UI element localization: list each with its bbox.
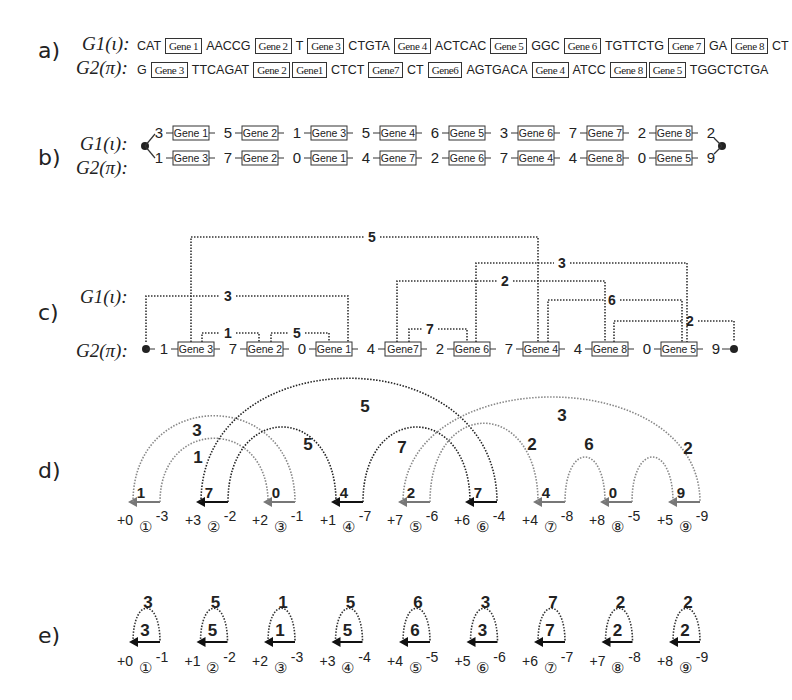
gene-label: Gene 3: [174, 152, 209, 164]
node-id: ⑨: [679, 659, 692, 676]
top-weight: 3: [481, 593, 490, 612]
intergene-size: 7: [505, 340, 513, 357]
intergene-size: 0: [298, 340, 306, 357]
gene-label: Gene 3: [312, 127, 347, 139]
link-bracket: [236, 296, 348, 342]
adjacency-arc: [565, 457, 605, 502]
intergene-size: 5: [224, 124, 232, 141]
left-extremity: +6: [454, 512, 470, 528]
link-bracket: [570, 263, 687, 342]
loop-weight: 7: [474, 484, 482, 501]
arc-label: 2: [527, 435, 536, 454]
right-extremity: -1: [156, 649, 169, 665]
top-weight: 2: [683, 593, 692, 612]
right-extremity: -3: [156, 508, 169, 524]
arc-label: 1: [193, 448, 202, 467]
intergene-sequence: CT: [769, 39, 792, 53]
top-weight: 7: [548, 593, 557, 612]
right-extremity: -4: [358, 649, 371, 665]
right-extremity: -5: [426, 649, 439, 665]
gene-label: Gene 4: [519, 152, 554, 164]
loop-weight: 4: [542, 484, 551, 501]
node-id: ③: [274, 518, 287, 535]
telomere-dot: [730, 345, 738, 353]
fork-line: [145, 134, 155, 146]
link-bracket: [380, 237, 538, 342]
intergene-size: 1: [155, 149, 163, 166]
gene-label: Gene 8: [588, 152, 623, 164]
right-extremity: -7: [359, 508, 372, 524]
link-label: 2: [501, 273, 509, 289]
top-weight: 6: [413, 593, 422, 612]
link-bracket: [513, 281, 605, 342]
gene-label: Gene 1: [317, 343, 352, 355]
gene-label: Gene 6: [519, 127, 554, 139]
left-extremity: +0: [117, 653, 133, 669]
intergene-size: 1: [293, 124, 301, 141]
intergene-size: 4: [367, 340, 375, 357]
link-bracket: [476, 263, 554, 342]
intergene-size: 2: [431, 149, 439, 166]
loop-weight: 6: [410, 621, 419, 640]
intergene-size: 7: [569, 124, 577, 141]
top-weight: 3: [143, 593, 152, 612]
gene-label: Gene 5: [657, 152, 692, 164]
intergene-size: 5: [362, 124, 370, 141]
left-extremity: +6: [522, 653, 538, 669]
loop-weight: 2: [613, 621, 622, 640]
node-id: ④: [342, 518, 355, 535]
top-weight: 5: [346, 593, 355, 612]
intergene-size: 2: [436, 340, 444, 357]
adjacency-arc: [632, 457, 673, 502]
adjacency-arc: [228, 427, 336, 502]
loop-weight: 7: [545, 621, 554, 640]
left-extremity: +3: [320, 653, 336, 669]
node-id: ⑧: [611, 659, 624, 676]
link-bracket: [548, 300, 604, 342]
right-extremity: -3: [291, 649, 304, 665]
left-extremity: +8: [657, 653, 673, 669]
loop-weight: 5: [208, 621, 217, 640]
adjacency-arc: [403, 397, 700, 502]
fork-line: [714, 138, 722, 146]
link-bracket: [614, 321, 682, 342]
gene-label: Gene 2: [248, 343, 283, 355]
link-bracket: [236, 333, 259, 342]
gene-label: Gene 1: [174, 127, 209, 139]
left-extremity: +5: [455, 653, 471, 669]
right-extremity: -6: [493, 649, 506, 665]
gene-label: Gene 1: [312, 152, 347, 164]
right-extremity: -2: [223, 649, 236, 665]
gene-label: Gene 6: [455, 343, 490, 355]
intergene-size: 2: [638, 124, 646, 141]
link-label: 6: [608, 292, 616, 308]
left-extremity: +4: [522, 512, 538, 528]
gene-label: Gene 5: [662, 343, 697, 355]
left-extremity: +4: [387, 653, 403, 669]
loop-weight: 2: [680, 621, 689, 640]
loop-weight: 3: [478, 621, 487, 640]
adjacency-arc: [160, 438, 268, 502]
link-bracket: [191, 237, 364, 342]
arc-label: 2: [683, 439, 692, 458]
right-extremity: -9: [696, 508, 709, 524]
gene-label: Gene 5: [450, 127, 485, 139]
fork-line: [714, 146, 722, 154]
node-id: ②: [206, 659, 219, 676]
gene-label: Gene 4: [381, 127, 416, 139]
gene-label: Gene7: [387, 343, 419, 355]
link-label: 5: [368, 229, 376, 245]
intergene-size: 7: [500, 149, 508, 166]
link-bracket: [698, 321, 734, 342]
link-bracket: [271, 333, 289, 342]
intergene-size: 4: [362, 149, 370, 166]
gene-label: Gene 6: [450, 152, 485, 164]
gene-label: Gene 7: [588, 127, 623, 139]
loop-weight: 4: [340, 484, 349, 501]
right-extremity: -5: [628, 508, 641, 524]
left-extremity: +7: [590, 653, 606, 669]
adjacency-arc: [430, 423, 538, 502]
link-bracket: [397, 281, 497, 342]
node-id: ⑥: [476, 659, 489, 676]
loop-weight: 9: [677, 484, 685, 501]
